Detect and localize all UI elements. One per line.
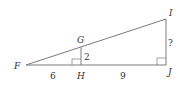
triangle-diagram: F G H I J 6 9 2 ? <box>0 0 182 87</box>
measure-hj: 9 <box>120 71 126 81</box>
vertex-label-g: G <box>77 35 84 45</box>
segment-fi <box>26 19 166 65</box>
measure-gh: 2 <box>84 52 90 62</box>
right-angle-marker-h <box>72 59 81 65</box>
vertex-label-f: F <box>13 61 21 71</box>
vertex-label-j: J <box>166 67 173 77</box>
measure-ij: ? <box>168 38 173 48</box>
measure-fh: 6 <box>50 71 56 81</box>
vertex-label-i: I <box>168 8 173 18</box>
vertex-label-h: H <box>76 71 85 81</box>
right-angle-marker-j <box>157 58 166 65</box>
